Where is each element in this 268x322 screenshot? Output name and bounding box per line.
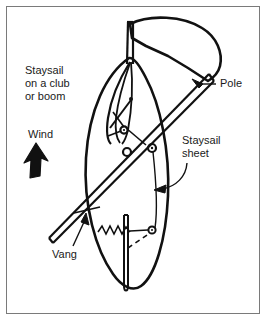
- pole-lower-edge: [53, 81, 214, 243]
- shock-cord-spring: [98, 226, 130, 234]
- pole-mid-fitting: [123, 148, 131, 156]
- sheet-block-dot: [151, 147, 153, 149]
- vang-leader-line: [73, 222, 84, 246]
- dashed-line: [128, 233, 150, 248]
- lower-ring-dot: [151, 229, 153, 231]
- wind-arrow-icon: [24, 143, 48, 178]
- spring-tail-line: [130, 230, 148, 231]
- pole-fitting-block-upper-dot: [123, 129, 125, 131]
- block-tail-line-a: [126, 128, 146, 145]
- block-tail-line-c: [113, 112, 124, 127]
- club-boom: [110, 100, 131, 128]
- sailing-rig-drawing: [0, 0, 268, 322]
- diagram-page: Staysail on a club or boom Wind Pole Sta…: [0, 0, 268, 322]
- block-tail-line-b: [108, 131, 121, 136]
- label-vang: Vang: [52, 248, 77, 261]
- label-staysail-sheet: Staysail sheet: [182, 134, 221, 160]
- mast-left-line: [127, 22, 128, 64]
- sail-body-outline: [86, 58, 169, 289]
- club-boom-end-fitting: [129, 97, 133, 101]
- label-staysail-on-a-club-or-boom: Staysail on a club or boom: [25, 64, 70, 103]
- label-wind: Wind: [28, 128, 53, 141]
- pole-end-cap: [49, 238, 53, 243]
- label-pole: Pole: [220, 77, 242, 90]
